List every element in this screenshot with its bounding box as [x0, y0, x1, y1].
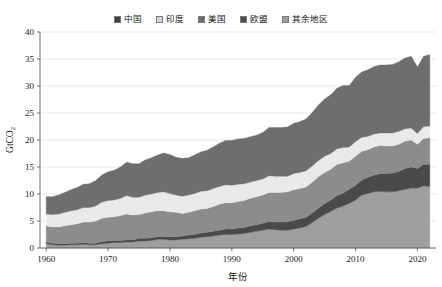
y-axis-title-subscript: 2 [9, 127, 16, 130]
y-axis-title: GtCO2 [5, 127, 16, 153]
y-tick-label-25: 25 [25, 108, 35, 118]
y-tick-label-5: 5 [30, 216, 35, 226]
x-tick-label-2000: 2000 [285, 254, 304, 264]
emissions-stacked-area-chart: 中国 印度 美国 欧盟 其余地区 05101520253035401960197… [0, 0, 442, 287]
y-tick-label-30: 30 [25, 81, 35, 91]
y-tick-label-40: 40 [25, 27, 35, 37]
x-tick-label-1990: 1990 [223, 254, 242, 264]
y-tick-label-20: 20 [25, 135, 35, 145]
x-tick-label-1960: 1960 [37, 254, 56, 264]
area-series-group [46, 55, 430, 248]
x-tick-label-2020: 2020 [408, 254, 427, 264]
y-tick-label-0: 0 [30, 243, 35, 253]
y-tick-label-35: 35 [25, 54, 35, 64]
x-tick-label-2010: 2010 [347, 254, 366, 264]
x-axis-title: 年份 [228, 271, 248, 282]
y-tick-label-15: 15 [25, 162, 35, 172]
plot-canvas: 0510152025303540196019701980199020002010… [0, 0, 442, 287]
x-tick-label-1980: 1980 [161, 254, 180, 264]
x-tick-label-1970: 1970 [99, 254, 118, 264]
y-tick-label-10: 10 [25, 189, 35, 199]
